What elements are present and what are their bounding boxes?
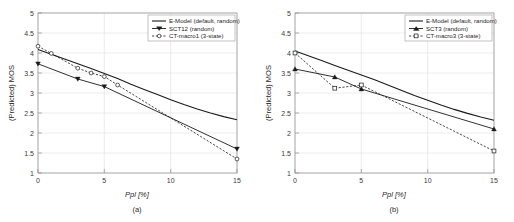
y-tick-label: 1 (30, 170, 34, 177)
data-point-circle-marker (116, 83, 120, 87)
data-point-square-marker (293, 51, 297, 55)
data-point-square-marker (492, 149, 496, 153)
x-tick-label: 0 (293, 177, 297, 184)
series-b-2 (293, 51, 496, 153)
data-point-circle-marker (102, 75, 106, 79)
data-point-triangle-up-marker (293, 67, 298, 71)
y-axis-title: (Predicted) MOS (7, 65, 16, 121)
chart-panel-a: 5 4.5 4 3.5 3 2.5 2 1.5 1 0 5 10 15 Ppl … (0, 0, 257, 222)
x-ticks-a (38, 169, 237, 173)
data-point-triangle-down-marker (235, 147, 240, 151)
data-point-circle-marker (76, 66, 80, 70)
y-tick-label: 2 (287, 130, 291, 137)
y-tick-label: 1.5 (24, 150, 34, 157)
legend-label: E-Model (default, random) (169, 17, 240, 24)
data-point-triangle-up-marker (359, 87, 364, 91)
data-point-circle-marker (89, 71, 93, 75)
series-line (295, 51, 494, 120)
y-ticks-b (295, 13, 299, 173)
x-tick-label: 5 (359, 177, 363, 184)
panel-caption: (b) (389, 205, 399, 214)
data-point-circle-marker (36, 44, 40, 48)
legend-b: E-Model (default, random) SCT3 (random) … (405, 15, 497, 41)
data-point-circle-marker (235, 157, 239, 161)
y-tick-label: 1.5 (281, 150, 291, 157)
y-ticks-a (38, 13, 42, 173)
series-line (295, 69, 494, 129)
y-tick-label: 3.5 (24, 70, 34, 77)
data-point-triangle-down-marker (102, 85, 107, 89)
legend-label: CT-macro1 (3-state) (169, 32, 224, 39)
x-axis-title: Ppl [%] (382, 190, 407, 199)
y-axis-title: (Predicted) MOS (264, 65, 273, 121)
y-tick-label: 4 (30, 50, 34, 57)
y-tick-label: 3 (30, 90, 34, 97)
legend-label: SCT3 (random) (426, 25, 468, 32)
y-tick-label: 5 (287, 10, 291, 17)
legend-label: CT-macro3 (3-state) (426, 32, 481, 39)
series-group-a (36, 44, 240, 161)
series-line (38, 49, 237, 119)
legend-label: SCT12 (random) (169, 25, 214, 32)
series-group-b (293, 51, 497, 153)
x-tick-label: 10 (424, 177, 432, 184)
chart-svg-b: 5 4.5 4 3.5 3 2.5 2 1.5 1 0 5 10 15 Ppl … (257, 0, 514, 222)
data-point-square-marker (359, 83, 363, 87)
y-tick-label: 2 (30, 130, 34, 137)
y-tick-label: 3 (287, 90, 291, 97)
y-tick-label: 2.5 (281, 110, 291, 117)
legend-a: E-Model (default, random) SCT12 (random)… (148, 15, 240, 41)
legend-swatch-square-marker (414, 34, 418, 38)
series-line (38, 64, 237, 149)
y-tick-label: 4 (287, 50, 291, 57)
x-tick-label: 15 (490, 177, 498, 184)
data-point-circle-marker (49, 52, 53, 56)
panel-caption: (a) (132, 205, 142, 214)
x-axis-title: Ppl [%] (125, 190, 150, 199)
chart-panel-b: 5 4.5 4 3.5 3 2.5 2 1.5 1 0 5 10 15 Ppl … (257, 0, 514, 222)
y-tick-label: 5 (30, 10, 34, 17)
y-tick-label: 2.5 (24, 110, 34, 117)
x-tick-label: 15 (233, 177, 241, 184)
y-tick-label: 4.5 (281, 30, 291, 37)
figure-container: 5 4.5 4 3.5 3 2.5 2 1.5 1 0 5 10 15 Ppl … (0, 0, 514, 222)
legend-swatch-circle-marker (157, 34, 161, 38)
x-tick-label: 5 (102, 177, 106, 184)
legend-label: E-Model (default, random) (426, 17, 497, 24)
data-point-square-marker (333, 86, 337, 90)
y-tick-label: 3.5 (281, 70, 291, 77)
series-a-1 (36, 62, 240, 151)
x-tick-label: 10 (167, 177, 175, 184)
x-ticks-b (295, 169, 494, 173)
series-line (295, 53, 494, 151)
series-b-0 (295, 51, 494, 120)
x-tick-label: 0 (36, 177, 40, 184)
chart-svg-a: 5 4.5 4 3.5 3 2.5 2 1.5 1 0 5 10 15 Ppl … (0, 0, 257, 222)
series-b-1 (293, 67, 497, 131)
y-tick-label: 1 (287, 170, 291, 177)
y-tick-label: 4.5 (24, 30, 34, 37)
series-a-0 (38, 49, 237, 119)
